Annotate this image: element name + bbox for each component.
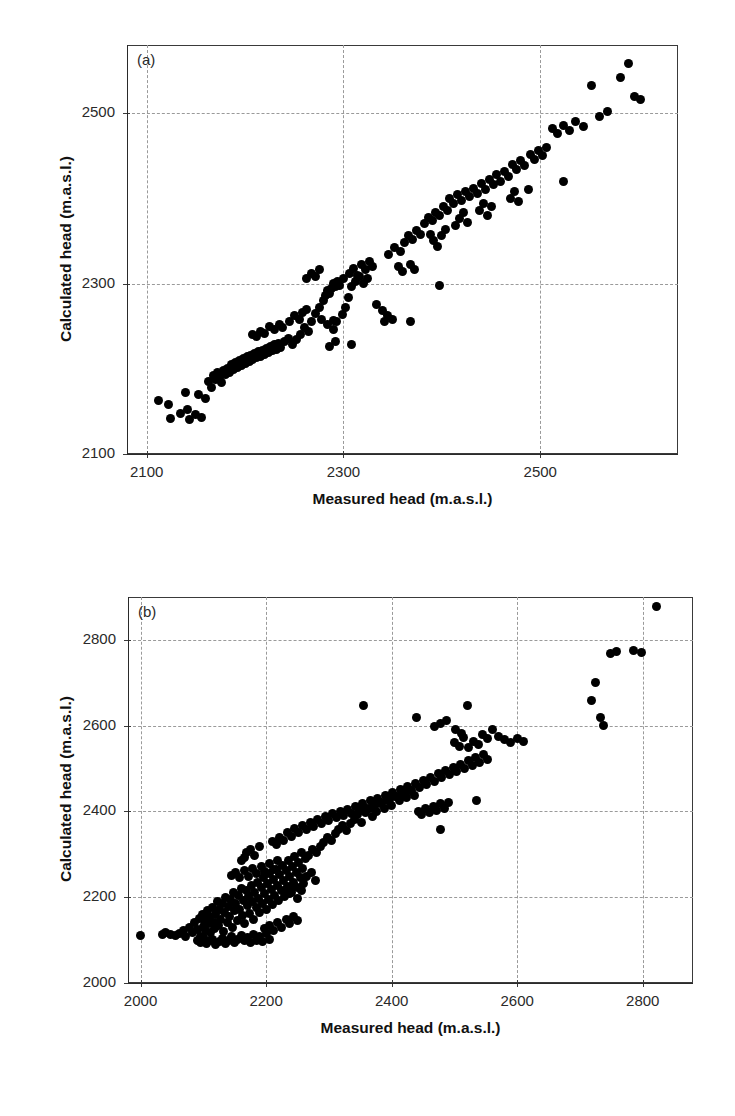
data-point [388,315,397,324]
data-point [559,177,568,186]
data-point [197,413,206,422]
data-point [311,876,320,885]
data-point [483,211,492,220]
gridline-horizontal [127,284,678,285]
data-point [520,161,529,170]
data-point [217,378,226,387]
data-point [463,218,472,227]
data-point [315,265,324,274]
data-point [297,886,306,895]
y-axis-title-b: Calculated head (m.a.s.l.) [57,596,75,982]
data-point [455,742,464,751]
x-tick-label: 2200 [226,992,306,1009]
data-point [240,853,249,862]
data-point [435,281,444,290]
data-point [637,648,646,657]
data-point [542,143,551,152]
data-point [329,316,338,325]
data-point [416,230,425,239]
gridline-horizontal [128,726,693,727]
data-point [436,825,445,834]
panel-label-a: (a) [137,51,155,68]
gridline-horizontal [128,811,693,812]
data-point [201,394,210,403]
panel-label-b: (b) [138,603,156,620]
data-point [433,242,442,251]
data-point [524,185,533,194]
plot-area-a [127,45,678,454]
y-tick-label: 2100 [45,444,115,461]
data-point [587,81,596,90]
x-tick-label: 2400 [352,992,432,1009]
data-point [519,737,528,746]
data-point [442,716,451,725]
x-tick-label: 2500 [500,463,580,480]
data-point [359,701,368,710]
data-point [363,274,372,283]
y-tick-label: 2400 [46,801,116,818]
gridline-vertical [141,597,142,983]
data-point [565,126,574,135]
data-point [368,262,377,271]
data-point [487,202,496,211]
data-point [463,701,472,710]
data-point [538,151,547,160]
data-point [250,851,259,860]
data-point [183,405,192,414]
data-point [483,734,492,743]
data-point [599,721,608,730]
data-point [612,647,621,656]
y-tick-label: 2000 [46,973,116,990]
gridline-horizontal [128,640,693,641]
data-point [136,931,145,940]
data-point [293,916,302,925]
x-axis-title-b: Measured head (m.a.s.l.) [128,1019,693,1037]
data-point [481,185,490,194]
figure-container: (a) Calculated head (m.a.s.l.) Measured … [0,0,735,1116]
data-point [164,400,173,409]
data-point [265,935,274,944]
data-point [483,755,492,764]
data-point [347,340,356,349]
data-point [154,396,163,405]
y-tick-label: 2300 [45,274,115,291]
data-point [459,208,468,217]
data-point [398,267,407,276]
data-point [181,932,190,941]
data-point [444,798,453,807]
data-point [441,225,450,234]
panel-a: (a) Calculated head (m.a.s.l.) Measured … [0,0,735,530]
data-point [380,317,389,326]
data-point [553,129,562,138]
data-point [240,919,249,928]
data-point [510,187,519,196]
data-point [329,325,338,334]
data-point [341,303,350,312]
data-point [603,107,612,116]
data-point [269,865,278,874]
data-point [636,95,645,104]
data-point [353,271,362,280]
data-point [410,791,419,800]
gridline-vertical [517,597,518,983]
x-tick-label: 2800 [603,992,683,1009]
data-point [302,305,311,314]
data-point [357,818,366,827]
data-point [396,247,405,256]
x-axis-line [128,983,693,984]
data-point [587,696,596,705]
y-axis-line [127,45,128,454]
data-point [412,713,421,722]
gridline-vertical [540,45,541,454]
y-tick-label: 2500 [45,103,115,120]
data-point [410,265,419,274]
x-tick-label: 2600 [477,992,557,1009]
gridline-vertical [343,45,344,454]
x-axis-title-a: Measured head (m.a.s.l.) [127,490,678,508]
x-axis-line [127,454,678,455]
y-axis-line [128,597,129,983]
data-point [474,740,483,749]
plot-area-b [128,597,693,983]
data-point [472,796,481,805]
data-point [624,59,633,68]
